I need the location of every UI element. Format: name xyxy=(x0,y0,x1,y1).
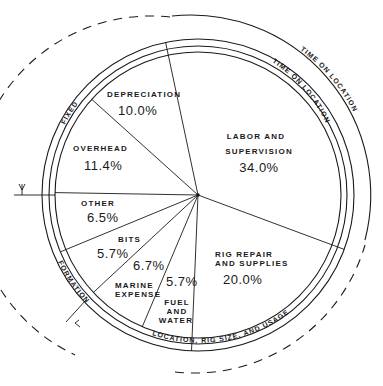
slice-boundary-rig-repair xyxy=(198,195,344,249)
slice-label-labor: LABOR AND SUPERVISION 34.0% xyxy=(225,132,293,175)
slice-label-other: OTHER 6.5% xyxy=(81,199,119,225)
center-point xyxy=(196,193,200,197)
pct-value: 34.0% xyxy=(239,160,278,175)
label-line: SUPERVISION xyxy=(225,147,293,156)
label-line: DEPRECIATION xyxy=(107,90,181,99)
cost-breakdown-pie-chart: LABOR AND SUPERVISION 34.0% RIG REPAIR A… xyxy=(0,0,383,386)
label-line: BITS xyxy=(118,235,141,244)
pct-value: 5.7% xyxy=(166,274,198,289)
slice-label-depreciation: DEPRECIATION 10.0% xyxy=(107,90,181,118)
slice-boundary-fuel-water xyxy=(192,195,199,351)
slice-label-marine-expense: MARINE EXPENSE 6.7% xyxy=(115,258,165,299)
label-line: OTHER xyxy=(81,199,115,208)
slice-boundary-labor xyxy=(166,42,198,195)
arc-text: FIXED xyxy=(60,100,80,126)
arc-label-fixed: FIXED xyxy=(60,100,80,126)
label-line: EXPENSE xyxy=(115,290,161,299)
pct-value: 6.7% xyxy=(133,258,165,273)
slice-boundary-overhead xyxy=(55,193,198,195)
slice-label-overhead: OVERHEAD 11.4% xyxy=(73,144,128,173)
pct-value: 5.7% xyxy=(97,246,129,261)
slice-boundaries xyxy=(55,42,344,351)
label-line: RIG REPAIR xyxy=(215,250,273,259)
arc-text: TIME ON LOCATION xyxy=(299,45,359,113)
label-line: AND SUPPLIES xyxy=(215,259,289,268)
arrow-up-icon xyxy=(75,320,80,327)
label-line: FUEL xyxy=(164,298,190,307)
label-line: MARINE xyxy=(115,281,154,290)
pct-value: 6.5% xyxy=(87,210,119,225)
slice-label-fuel-water: FUEL AND WATER 5.7% xyxy=(159,274,198,325)
dashed-arc xyxy=(0,16,170,355)
pct-value: 20.0% xyxy=(223,272,262,287)
slice-label-rig-repair: RIG REPAIR AND SUPPLIES 20.0% xyxy=(215,250,289,287)
pct-value: 10.0% xyxy=(118,103,157,118)
label-line: AND xyxy=(167,307,188,316)
arc-label-time-on-location-outer: TIME ON LOCATION xyxy=(299,45,359,113)
label-line: LABOR AND xyxy=(227,132,286,141)
label-line: OVERHEAD xyxy=(73,144,128,153)
label-line: WATER xyxy=(159,316,193,325)
pct-value: 11.4% xyxy=(84,158,122,173)
bits-marine-extension-line xyxy=(66,300,86,322)
